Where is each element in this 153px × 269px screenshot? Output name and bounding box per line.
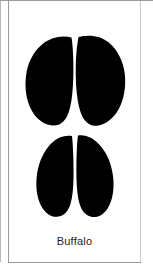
front-hoof-right-lobe [76,36,125,126]
rear-hoof-right-lobe [76,135,113,217]
front-hoof-left-lobe [25,37,73,126]
buffalo-hoof-track-icon [9,1,140,229]
front-hoof-print-group [25,36,125,126]
card-border-bottom [8,262,141,263]
outer-edge-rule [0,0,1,262]
animal-track-card: Buffalo [0,0,153,269]
rear-hoof-print-group [36,135,113,217]
rear-hoof-left-lobe [36,136,73,217]
track-caption: Buffalo [9,234,140,248]
card-border-right [140,1,141,262]
